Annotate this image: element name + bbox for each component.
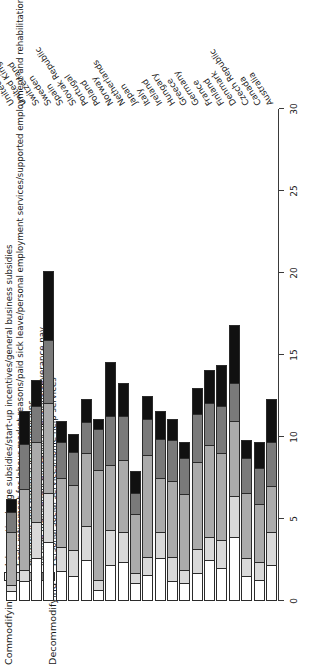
bar-segment-3 xyxy=(142,419,153,455)
bar-row: Denmark xyxy=(229,109,241,601)
bar-segment-2 xyxy=(204,445,215,537)
bar-segment-1 xyxy=(31,522,42,558)
bar-segment-3 xyxy=(216,406,227,454)
bar-series-container: AustraliaCanadaCzech RepublicDenmarkFinl… xyxy=(6,109,278,601)
bar-segment-1 xyxy=(229,496,240,537)
axis-tick-25 xyxy=(279,190,284,191)
bar-segment-2 xyxy=(254,504,265,561)
bar-segment-0 xyxy=(155,558,166,601)
bar-segment-4 xyxy=(6,499,17,512)
bar-segment-1 xyxy=(167,557,178,582)
bar-segment-2 xyxy=(56,478,67,547)
bar-segment-3 xyxy=(266,442,277,486)
bar-segment-0 xyxy=(167,581,178,601)
bar-row: Norway xyxy=(105,109,117,601)
bar-segment-3 xyxy=(19,444,30,490)
value-axis-line xyxy=(278,109,279,601)
bar-segment-0 xyxy=(179,583,190,601)
bar-segment-4 xyxy=(68,434,79,452)
bar-row: Ireland xyxy=(154,109,166,601)
bar-row: Switzerland xyxy=(31,109,43,601)
bar-row: Netherlands xyxy=(117,109,129,601)
axis-tick-label-10: 10 xyxy=(289,431,299,442)
axis-tick-20 xyxy=(279,272,284,273)
bar-segment-3 xyxy=(43,340,54,402)
bar-segment-1 xyxy=(155,532,166,558)
axis-tick-label-0: 0 xyxy=(289,598,299,604)
bar-segment-0 xyxy=(68,576,79,601)
stacked-bar xyxy=(266,399,277,601)
bar-segment-0 xyxy=(216,568,227,601)
stacked-bar xyxy=(229,326,240,602)
bar-segment-0 xyxy=(93,590,104,601)
bar-segment-4 xyxy=(105,362,116,416)
bar-segment-1 xyxy=(204,537,215,560)
bar-segment-0 xyxy=(19,581,30,601)
stacked-bar xyxy=(81,399,92,601)
bar-segment-3 xyxy=(179,458,190,494)
stacked-bar xyxy=(167,419,178,601)
bar-segment-3 xyxy=(130,493,141,514)
axis-tick-15 xyxy=(279,354,284,355)
bar-segment-3 xyxy=(155,439,166,478)
bar-segment-0 xyxy=(266,565,277,601)
stacked-bar xyxy=(6,499,17,601)
bar-segment-1 xyxy=(179,570,190,583)
bar-segment-1 xyxy=(241,558,252,576)
bar-row: Czech Republic xyxy=(241,109,253,601)
bar-segment-1 xyxy=(142,557,153,575)
bar-row: United States xyxy=(6,109,18,601)
bar-segment-0 xyxy=(229,537,240,601)
bar-segment-3 xyxy=(81,422,92,453)
bar-segment-3 xyxy=(6,512,17,532)
bar-segment-4 xyxy=(204,370,215,403)
stacked-bar xyxy=(31,380,42,601)
bar-segment-2 xyxy=(31,442,42,522)
bar-segment-2 xyxy=(43,403,54,493)
bar-segment-4 xyxy=(118,383,129,416)
axis-tick-label-25: 25 xyxy=(289,185,299,196)
stacked-bar-chart: Commodifying Job creation/wage subsidies… xyxy=(0,0,317,671)
bar-segment-1 xyxy=(130,573,141,583)
bar-segment-3 xyxy=(254,468,265,504)
bar-segment-3 xyxy=(229,383,240,421)
stacked-bar xyxy=(192,388,203,601)
bar-segment-4 xyxy=(142,396,153,419)
bar-segment-4 xyxy=(81,399,92,422)
bar-segment-4 xyxy=(43,271,54,340)
stacked-bar xyxy=(216,365,227,601)
bar-segment-0 xyxy=(31,558,42,601)
bar-segment-3 xyxy=(192,414,203,462)
bar-segment-1 xyxy=(43,493,54,542)
bar-segment-0 xyxy=(6,591,17,601)
bar-segment-3 xyxy=(93,429,104,470)
bar-segment-1 xyxy=(68,550,79,576)
stacked-bar xyxy=(68,434,79,601)
bar-segment-1 xyxy=(192,549,203,574)
bar-segment-1 xyxy=(6,585,17,592)
bar-segment-1 xyxy=(93,580,104,590)
chart-figure-wrapper: Commodifying Job creation/wage subsidies… xyxy=(0,0,317,671)
bar-segment-4 xyxy=(241,440,252,458)
bar-segment-0 xyxy=(204,560,215,601)
axis-tick-0 xyxy=(279,600,284,601)
stacked-bar xyxy=(179,442,190,601)
bar-segment-2 xyxy=(179,494,190,569)
bar-segment-3 xyxy=(241,458,252,492)
bar-segment-4 xyxy=(93,419,104,429)
bar-segment-2 xyxy=(19,490,30,570)
stacked-bar xyxy=(204,370,215,601)
bar-segment-0 xyxy=(254,580,265,601)
bar-segment-3 xyxy=(68,452,79,485)
bar-segment-2 xyxy=(216,453,227,540)
stacked-bar xyxy=(118,383,129,601)
bar-segment-2 xyxy=(167,481,178,556)
bar-row: Italy xyxy=(142,109,154,601)
bar-segment-3 xyxy=(56,442,67,478)
bar-segment-4 xyxy=(192,388,203,414)
axis-tick-label-20: 20 xyxy=(289,267,299,278)
bar-segment-0 xyxy=(81,560,92,601)
bar-segment-1 xyxy=(105,530,116,564)
bar-row: Canada xyxy=(253,109,265,601)
bar-segment-2 xyxy=(142,455,153,557)
